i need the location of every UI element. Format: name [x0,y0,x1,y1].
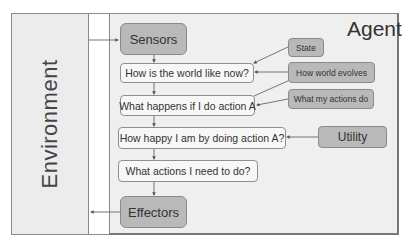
utility-node: Utility [318,126,387,148]
world-now-node: How is the world like now? [120,63,254,83]
connector-lines [0,0,416,247]
sensors-node: Sensors [120,23,187,55]
world-evolves-node: How world evolves [288,62,375,83]
what-actions-node: What actions I need to do? [118,160,258,182]
state-node: State [288,38,324,57]
how-happy-node: How happy I am by doing action A? [118,127,286,149]
my-actions-do-node: What my actions do [288,89,374,109]
what-happens-node: What happens if I do action A [120,95,255,116]
what-happens-label: What happens if I do action A [119,100,256,112]
effectors-node: Effectors [120,196,187,228]
